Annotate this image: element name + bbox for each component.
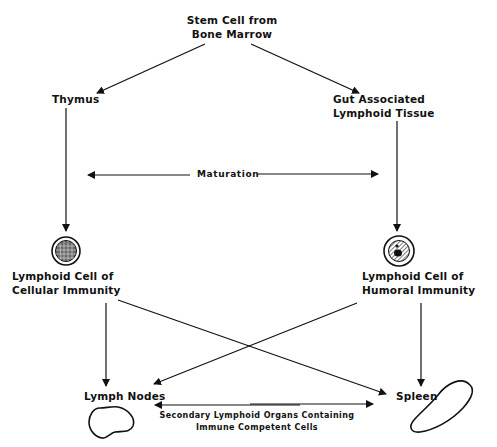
lymph-nodes-label: Lymph Nodes xyxy=(84,389,166,403)
humoral-immunity-label: Lymphoid Cell of Humoral Immunity xyxy=(362,269,475,297)
galt-label: Gut Associated Lymphoid Tissue xyxy=(333,92,435,120)
arrow-humoral-to-lymph-nodes xyxy=(154,303,357,384)
lymphoid-development-diagram: Stem Cell from Bone Marrow Thymus Gut As… xyxy=(0,0,497,447)
humoral-immunity-cell-icon xyxy=(384,236,414,266)
lymph-node-shape xyxy=(89,407,134,438)
maturation-label: Maturation xyxy=(197,167,259,181)
stem-cell-label-line1: Stem Cell from xyxy=(187,13,278,27)
cellular-immunity-cell-icon xyxy=(52,237,80,265)
stem-cell-label: Stem Cell from Bone Marrow xyxy=(187,13,278,41)
humoral-label-line1: Lymphoid Cell of xyxy=(362,269,475,283)
galt-label-line2: Lymphoid Tissue xyxy=(333,106,435,120)
cellular-immunity-label: Lymphoid Cell of Cellular Immunity xyxy=(12,269,121,297)
cellular-label-line1: Lymphoid Cell of xyxy=(12,269,121,283)
arrow-cellular-to-spleen xyxy=(118,300,386,394)
secondary-organs-label: Secondary Lymphoid Organs Containing Imm… xyxy=(160,410,355,434)
secondary-label-line1: Secondary Lymphoid Organs Containing xyxy=(160,410,355,422)
cellular-label-line2: Cellular Immunity xyxy=(12,283,121,297)
galt-label-line1: Gut Associated xyxy=(333,92,435,106)
humoral-label-line2: Humoral Immunity xyxy=(362,283,475,297)
stem-cell-label-line2: Bone Marrow xyxy=(187,27,278,41)
arrow-stem-to-galt xyxy=(251,44,359,93)
arrow-stem-to-thymus xyxy=(97,44,205,93)
thymus-label: Thymus xyxy=(52,92,99,106)
spleen-label: Spleen xyxy=(396,389,438,403)
diagram-connectors xyxy=(0,0,497,447)
secondary-label-line2: Immune Competent Cells xyxy=(160,422,355,434)
